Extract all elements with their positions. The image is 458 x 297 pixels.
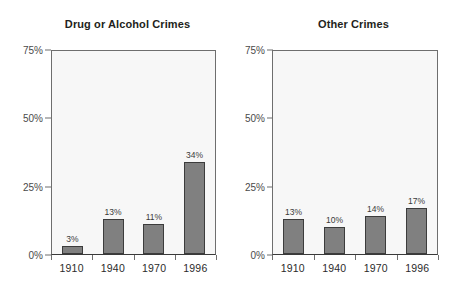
bar-value-label: 13% xyxy=(105,207,122,217)
x-axis-labels-left: 1910 1940 1970 1996 xyxy=(51,262,216,278)
bar-value-label: 14% xyxy=(367,204,384,214)
plot-area-right: 13% 10% 14% 17% xyxy=(272,50,438,255)
chart-panel-drug-or-alcohol-crimes: Drug or Alcohol Crimes 75% 50% 25% 0% 3% xyxy=(0,0,229,297)
x-axis-labels-right: 1910 1940 1970 1996 xyxy=(272,262,438,278)
bar-1996[interactable]: 34% xyxy=(184,162,205,254)
x-axis-ticks-right xyxy=(272,255,438,260)
x-tick-mark xyxy=(355,255,356,260)
bar-1940[interactable]: 13% xyxy=(103,219,124,254)
x-tick-label: 1910 xyxy=(51,262,92,278)
x-tick-mark xyxy=(397,255,398,260)
plot-area-left: 3% 13% 11% 34% xyxy=(51,50,216,255)
x-tick-label: 1910 xyxy=(272,262,314,278)
chart-title-left: Drug or Alcohol Crimes xyxy=(0,18,229,30)
bar-slot: 14% xyxy=(355,51,396,254)
x-tick-mark xyxy=(134,255,135,260)
y-tick-label: 0% xyxy=(29,250,43,261)
bar-slot: 34% xyxy=(174,51,215,254)
y-tick-label: 25% xyxy=(245,181,265,192)
x-tick-mark xyxy=(175,255,176,260)
chart-panel-other-crimes: Other Crimes 75% 50% 25% 0% 13% 10% xyxy=(229,0,458,297)
y-axis-right: 75% 50% 25% 0% xyxy=(225,50,273,255)
x-tick-label: 1996 xyxy=(397,262,439,278)
x-tick-label: 1970 xyxy=(355,262,397,278)
x-tick-mark xyxy=(438,255,439,260)
x-tick-mark xyxy=(272,255,273,260)
bar-value-label: 11% xyxy=(146,212,162,222)
bar-value-label: 17% xyxy=(408,196,425,206)
x-tick-mark xyxy=(314,255,315,260)
bar-value-label: 13% xyxy=(285,207,302,217)
x-tick-mark xyxy=(216,255,217,260)
chart-figure: Drug or Alcohol Crimes 75% 50% 25% 0% 3% xyxy=(0,0,458,297)
x-tick-label: 1940 xyxy=(92,262,133,278)
x-tick-mark xyxy=(92,255,93,260)
bar-1940[interactable]: 10% xyxy=(324,227,345,254)
bar-slot: 13% xyxy=(93,51,134,254)
x-tick-label: 1940 xyxy=(314,262,356,278)
x-tick-mark xyxy=(51,255,52,260)
bar-1910[interactable]: 3% xyxy=(62,246,83,254)
bar-slot: 13% xyxy=(273,51,314,254)
x-tick-label: 1996 xyxy=(175,262,216,278)
y-tick-label: 75% xyxy=(245,45,265,56)
bar-series-right: 13% 10% 14% 17% xyxy=(273,51,437,254)
bar-series-left: 3% 13% 11% 34% xyxy=(52,51,215,254)
y-tick-label: 0% xyxy=(251,250,265,261)
y-tick-label: 25% xyxy=(23,181,43,192)
y-tick-label: 75% xyxy=(23,45,43,56)
bar-1970[interactable]: 11% xyxy=(143,224,164,254)
y-tick-label: 50% xyxy=(245,113,265,124)
chart-title-right: Other Crimes xyxy=(229,18,458,30)
y-axis-left: 75% 50% 25% 0% xyxy=(3,50,51,255)
bar-slot: 17% xyxy=(396,51,437,254)
bar-value-label: 10% xyxy=(326,215,343,225)
x-axis-ticks-left xyxy=(51,255,216,260)
bar-slot: 3% xyxy=(52,51,93,254)
x-tick-label: 1970 xyxy=(134,262,175,278)
bar-value-label: 3% xyxy=(66,234,78,244)
bar-slot: 11% xyxy=(134,51,175,254)
y-tick-label: 50% xyxy=(23,113,43,124)
bar-slot: 10% xyxy=(314,51,355,254)
bar-1970[interactable]: 14% xyxy=(365,216,386,254)
bar-value-label: 34% xyxy=(186,150,203,160)
bar-1996[interactable]: 17% xyxy=(406,208,427,254)
bar-1910[interactable]: 13% xyxy=(283,219,304,254)
